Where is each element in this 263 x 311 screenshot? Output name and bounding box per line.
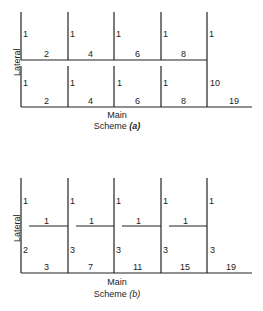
lateral-value: 1 [70,196,75,206]
main-value: 2 [44,49,49,59]
lateral-value: 1 [23,78,28,88]
lateral-value: 3 [163,245,168,255]
main-value: 2 [44,96,49,106]
lateral-axis-label-b: Lateral [12,214,22,242]
main-value: 6 [135,96,140,106]
main-value: 11 [133,262,142,272]
main-value: 8 [181,96,186,106]
lateral-value: 1 [117,78,122,88]
lateral-value: 10 [210,78,220,88]
main-value: 4 [88,96,93,106]
lateral-value: 1 [209,29,214,39]
lateral-value: 1 [116,29,121,39]
branch-value: 1 [136,216,141,226]
lateral-value: 1 [163,196,168,206]
lateral-axis-label-a: Lateral [12,48,22,76]
lateral-value: 1 [163,29,168,39]
branch-value: 1 [89,216,94,226]
lateral-value: 1 [163,78,168,88]
lateral-value: 3 [116,245,121,255]
lateral-value: 1 [116,196,121,206]
main-value: 8 [181,49,186,59]
main-value: 6 [135,49,140,59]
main-value: 7 [88,262,93,272]
caption-b: Scheme (b) [77,289,157,299]
main-axis-label-a: Main [77,110,157,120]
lateral-value: 1 [70,29,75,39]
main-value: 19 [229,96,239,106]
diagram-lines [0,0,263,311]
lateral-value: 1 [23,29,28,39]
lateral-value: 1 [209,196,214,206]
main-value: 15 [180,262,190,272]
main-value: 3 [44,262,49,272]
lateral-value: 1 [23,196,28,206]
lateral-value: 3 [210,245,215,255]
lateral-value: 1 [70,78,75,88]
caption-a: Scheme (a) [77,121,157,131]
lateral-value: 3 [70,245,75,255]
branch-value: 1 [183,216,188,226]
branch-value: 1 [44,216,49,226]
main-value: 19 [226,262,236,272]
main-axis-label-b: Main [77,277,157,287]
main-value: 4 [88,49,93,59]
lateral-value: 2 [23,245,28,255]
